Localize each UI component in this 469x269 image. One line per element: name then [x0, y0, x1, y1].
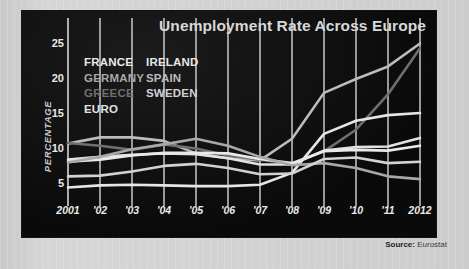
x-axis-tick-labels: 2001'02'03'04'05'06'07'08'09'10'112012 — [68, 202, 420, 222]
legend-item-sweden: SWEDEN — [146, 86, 199, 102]
x-axis-tick-label: '05 — [189, 204, 203, 216]
legend-item-spain: SPAIN — [146, 71, 199, 87]
legend-item-euro: EURO — [84, 102, 144, 118]
legend-item-germany: GERMANY — [84, 71, 144, 87]
y-axis-title: PERCENTAGE — [42, 95, 53, 179]
legend-column-right: IRELANDSPAINSWEDEN — [146, 55, 199, 102]
y-axis-tick-label: 5 — [58, 177, 64, 189]
y-axis-tick-label: 25 — [52, 37, 64, 49]
legend-item-greece: GREECE — [84, 86, 144, 102]
x-axis-tick-label: '11 — [381, 204, 394, 216]
x-axis-tick-label: '03 — [125, 204, 139, 216]
x-axis-tick-label: '08 — [285, 204, 299, 216]
source-label: Source: — [385, 240, 415, 249]
x-axis-tick-label: 2001 — [56, 204, 79, 216]
legend-item-france: FRANCE — [84, 55, 144, 71]
y-axis-tick-label: 20 — [52, 72, 64, 84]
x-axis-tick-label: '04 — [157, 204, 171, 216]
source-attribution: Source: Eurostat — [385, 240, 447, 249]
chart-page: Unemployment Rate Across Europe 51015202… — [0, 0, 469, 269]
y-axis-tick-label: 15 — [52, 107, 64, 119]
x-axis-tick-label: 2012 — [408, 204, 431, 216]
y-axis-tick-label: 10 — [52, 142, 64, 154]
x-axis-tick-label: '07 — [253, 204, 267, 216]
x-axis-tick-label: '02 — [93, 204, 107, 216]
legend-column-left: FRANCEGERMANYGREECEEURO — [84, 55, 144, 117]
chart-panel: Unemployment Rate Across Europe 51015202… — [22, 11, 436, 237]
x-axis-tick-label: '06 — [221, 204, 235, 216]
x-axis-tick-label: '09 — [317, 204, 331, 216]
x-axis-tick-label: '10 — [349, 204, 363, 216]
source-value: Eurostat — [417, 240, 447, 249]
legend-item-ireland: IRELAND — [146, 55, 199, 71]
